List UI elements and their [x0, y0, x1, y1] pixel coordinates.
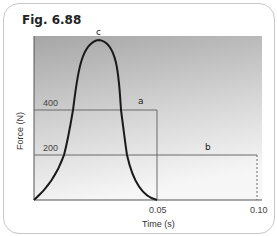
label-c: c: [96, 27, 101, 37]
x-axis-label: Time (s): [142, 219, 175, 229]
label-a: a: [138, 96, 144, 106]
y-tick-200: 200: [43, 143, 58, 153]
x-tick-0.10: 0.10: [250, 205, 268, 215]
plot-area: [34, 36, 262, 200]
label-b: b: [205, 142, 211, 152]
force-time-chart: 400 200 0.05 0.10 Time (s) Force (N) a b…: [0, 0, 277, 236]
y-tick-400: 400: [43, 98, 58, 108]
x-tick-0.05: 0.05: [149, 205, 167, 215]
y-axis-label: Force (N): [15, 112, 25, 150]
